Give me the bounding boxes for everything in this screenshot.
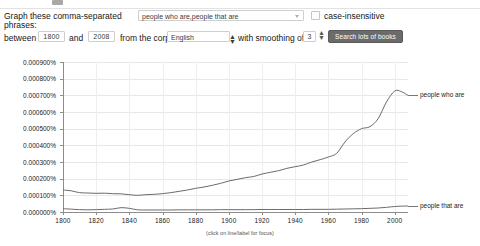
search-button[interactable]: Search lots of books — [328, 30, 403, 43]
x-axis-tick-label: 1820 — [81, 217, 111, 225]
chart-caption: (click on line/label for focus) — [0, 230, 480, 236]
corpus-stepper-icon[interactable]: ▲▼ — [229, 33, 235, 44]
series-line[interactable] — [63, 206, 408, 210]
phrases-input-value: people who are,people that are — [142, 12, 239, 21]
smoothing-stepper-icon[interactable]: ▲▼ — [318, 31, 324, 42]
x-axis-tick-label: 1920 — [247, 217, 277, 225]
x-axis-tick-label: 1900 — [214, 217, 244, 225]
y-axis-tick-label: 0.000800% — [0, 75, 56, 82]
ngram-viewer-page: Graph these comma-separated phrases: peo… — [0, 0, 480, 246]
chevron-down-icon[interactable] — [295, 15, 299, 18]
y-axis-tick-label: 0.000400% — [0, 142, 56, 149]
case-insensitive-label: case-insensitive — [324, 11, 384, 21]
y-axis-tick-label: 0.000100% — [0, 192, 56, 199]
between-label: between — [4, 33, 36, 44]
smoothing-value: 3 — [304, 32, 315, 42]
year-start-value: 1800 — [39, 32, 64, 42]
y-axis-tick-label: 0.000200% — [0, 175, 56, 182]
x-axis-tick-label: 1980 — [347, 217, 377, 225]
series-leader-line — [408, 206, 418, 207]
case-insensitive-checkbox[interactable] — [311, 11, 320, 20]
x-axis-tick-label: 1880 — [181, 217, 211, 225]
query-form-row2: between 1800 and 2008 from the corpus En… — [0, 30, 480, 45]
y-axis-tick-label: 0.000900% — [0, 59, 56, 66]
corpus-select[interactable]: English ▲▼ — [167, 31, 230, 42]
plot-area[interactable] — [63, 62, 408, 213]
year-end-value: 2008 — [89, 32, 114, 42]
phrases-input[interactable]: people who are,people that are — [138, 10, 304, 21]
x-axis-tick-label: 1800 — [48, 217, 78, 225]
y-axis-tick-label: 0.000500% — [0, 125, 56, 132]
year-end-input[interactable]: 2008 — [88, 31, 115, 42]
series-leader-line — [408, 95, 418, 96]
and-label: and — [69, 33, 83, 44]
smoothing-label: with smoothing of — [238, 33, 304, 44]
series-label[interactable]: people that are — [420, 202, 463, 210]
search-button-label: Search lots of books — [329, 31, 402, 42]
series-lines[interactable] — [63, 62, 408, 213]
y-axis-tick-label: 0.000700% — [0, 92, 56, 99]
x-axis-tick-label: 1840 — [114, 217, 144, 225]
y-axis-tick-label: 0.000000% — [0, 209, 56, 216]
partial-logo-icon — [52, 0, 63, 5]
x-axis-tick-label: 1960 — [313, 217, 343, 225]
ngram-chart[interactable]: 0.000900%0.000800%0.000700%0.000600%0.00… — [0, 46, 480, 246]
corpus-select-value: English — [171, 33, 194, 42]
x-axis-tick-label: 1940 — [280, 217, 310, 225]
smoothing-input[interactable]: 3 — [303, 31, 316, 42]
year-start-input[interactable]: 1800 — [38, 31, 65, 42]
y-axis-tick-label: 0.000600% — [0, 109, 56, 116]
x-axis-tick-label: 2000 — [380, 217, 410, 225]
series-label[interactable]: people who are — [420, 91, 464, 99]
y-axis-tick-label: 0.000300% — [0, 159, 56, 166]
series-line[interactable] — [63, 90, 408, 195]
x-axis-tick-label: 1860 — [148, 217, 178, 225]
top-toolbar-strip — [0, 0, 480, 9]
